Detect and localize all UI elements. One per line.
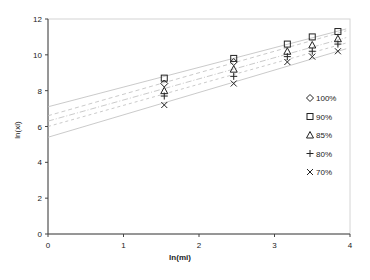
legend-cross-icon	[307, 169, 313, 175]
plot-area	[48, 19, 350, 234]
x-axis-ticks: 01234	[46, 234, 353, 250]
legend-plus-icon	[307, 150, 314, 157]
legend-label: 85%	[316, 131, 332, 140]
legend-triangle-icon	[307, 132, 314, 139]
x-tick-label: 0	[46, 241, 51, 250]
y-axis-ticks: 024681012	[33, 15, 48, 239]
trendline-85pct	[48, 38, 346, 122]
legend: 100%90%85%80%70%	[307, 94, 337, 177]
legend-label: 100%	[316, 94, 336, 103]
trendline-70pct	[48, 49, 346, 137]
x-tick-label: 4	[348, 241, 353, 250]
trendlines	[48, 29, 346, 137]
y-tick-label: 12	[33, 15, 42, 24]
x-tick-label: 2	[197, 241, 202, 250]
x-tick-label: 3	[272, 241, 277, 250]
y-tick-label: 4	[38, 158, 43, 167]
x-tick-label: 1	[121, 241, 126, 250]
legend-label: 70%	[316, 168, 332, 177]
data-point-triangle-icon	[309, 41, 316, 48]
data-point-cross-icon	[335, 48, 341, 54]
data-point-cross-icon	[231, 81, 237, 87]
x-axis-label: ln(mi)	[169, 253, 191, 262]
y-axis-label: ln(xi)	[13, 121, 22, 139]
trendline-90pct	[48, 31, 346, 116]
trendline-100pct	[48, 29, 346, 107]
data-point-plus-icon	[230, 73, 237, 80]
y-tick-label: 6	[38, 123, 43, 132]
y-tick-label: 2	[38, 194, 43, 203]
legend-diamond-icon	[307, 95, 314, 102]
y-tick-label: 10	[33, 51, 42, 60]
y-tick-label: 0	[38, 230, 43, 239]
scatter-chart: 024681012 01234 100%90%85%80%70% ln(mi) …	[0, 0, 370, 280]
data-point-diamond-icon	[230, 59, 237, 66]
trendline-80pct	[48, 43, 346, 127]
legend-label: 90%	[316, 113, 332, 122]
y-tick-label: 8	[38, 87, 43, 96]
legend-label: 80%	[316, 150, 332, 159]
legend-square-icon	[307, 114, 313, 120]
